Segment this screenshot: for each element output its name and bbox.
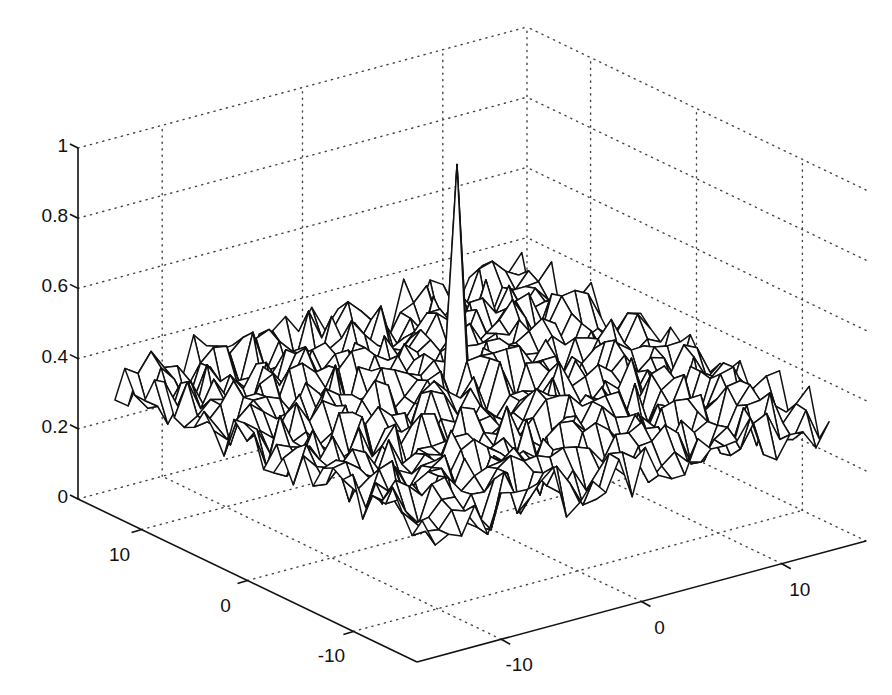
x-tick-label: -10 [505, 654, 532, 675]
y-tick [238, 581, 248, 584]
y-tick [343, 631, 353, 634]
surface-mesh [115, 165, 829, 545]
y-tick-label: -10 [318, 645, 345, 666]
z-tick [70, 284, 78, 288]
x-tick [642, 602, 651, 607]
x-tick [782, 564, 791, 569]
z-tick-label: 0.2 [42, 416, 68, 437]
y-tick [132, 530, 142, 533]
x-tick-label: 10 [789, 579, 810, 600]
z-tick-label: 0.8 [42, 205, 68, 226]
surface-plot: 0 0.2 0.4 0.6 0.8 1 -10 0 10 -10 0 10 [0, 0, 892, 695]
z-axis-tick-labels: 0 0.2 0.4 0.6 0.8 1 [42, 135, 69, 507]
z-tick-label: 0.4 [42, 346, 69, 367]
z-tick [70, 144, 78, 148]
z-tick-label: 0 [57, 486, 68, 507]
z-tick [70, 425, 78, 429]
x-tick [501, 639, 510, 644]
y-axis-tick-labels: -10 0 10 [109, 544, 345, 667]
z-tick [70, 495, 78, 499]
y-tick-label: 10 [109, 544, 130, 565]
x-axis-tick-labels: -10 0 10 [505, 579, 810, 676]
y-tick-label: 0 [220, 595, 231, 616]
z-tick-label: 0.6 [42, 275, 68, 296]
z-tick [70, 214, 78, 218]
x-tick-label: 0 [654, 617, 665, 638]
peak-facet [444, 165, 467, 405]
z-tick [70, 355, 78, 359]
z-tick-label: 1 [57, 135, 68, 156]
